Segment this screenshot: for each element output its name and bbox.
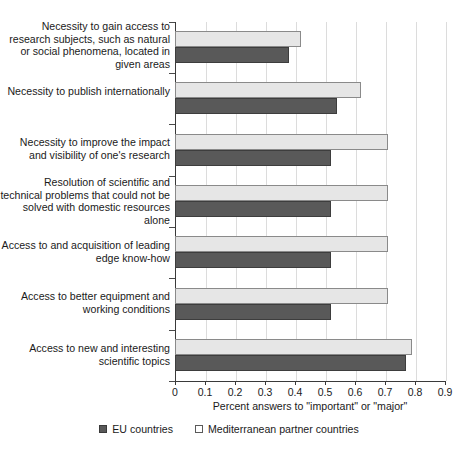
legend-label-eu-countries: EU countries	[112, 423, 173, 435]
y-tick-2	[169, 124, 175, 125]
gridline-0.6	[356, 22, 357, 381]
x-tick-mark-9	[445, 381, 446, 385]
empty-square-icon	[195, 425, 203, 433]
x-axis-line	[175, 381, 446, 382]
x-tick-mark-6	[355, 381, 356, 385]
x-axis-title: Percent answers to "important" or "major…	[175, 400, 445, 412]
x-tick-label-4: 0.4	[280, 386, 310, 398]
x-tick-mark-0	[175, 381, 176, 385]
category-label-5: Access to better equipment and working c…	[0, 290, 170, 315]
category-label-text: Necessity to gain access to research sub…	[9, 20, 170, 70]
bar-med-5	[175, 288, 388, 304]
bar-eu-2	[175, 150, 331, 166]
bar-med-2	[175, 134, 388, 150]
legend-item-eu-countries: EU countries	[99, 423, 173, 435]
gridline-0.8	[416, 22, 417, 381]
x-tick-label-3: 0.3	[250, 386, 280, 398]
x-tick-mark-3	[265, 381, 266, 385]
y-tick-5	[169, 278, 175, 279]
x-tick-label-2: 0.2	[220, 386, 250, 398]
bar-med-1	[175, 82, 361, 98]
x-tick-mark-8	[415, 381, 416, 385]
gridline-0.7	[386, 22, 387, 381]
category-label-2: Necessity to improve the impact and visi…	[0, 136, 170, 161]
x-tick-mark-4	[295, 381, 296, 385]
bar-eu-4	[175, 252, 331, 268]
x-tick-label-5: 0.5	[310, 386, 340, 398]
bar-eu-6	[175, 355, 406, 371]
y-tick-4	[169, 227, 175, 228]
bar-med-6	[175, 339, 412, 355]
legend-label-mediterranean-partner-countries: Mediterranean partner countries	[208, 423, 359, 435]
category-label-3: Resolution of scientific and technical p…	[0, 176, 170, 226]
category-label-text: Necessity to publish internationally	[7, 85, 170, 97]
category-label-text: Necessity to improve the impact and visi…	[20, 136, 170, 161]
x-tick-label-6: 0.6	[340, 386, 370, 398]
x-tick-label-8: 0.8	[400, 386, 430, 398]
bar-med-4	[175, 236, 388, 252]
category-label-1: Necessity to publish internationally	[0, 85, 170, 98]
bar-med-0	[175, 31, 301, 47]
chart-legend: EU countries Mediterranean partner count…	[0, 423, 458, 435]
filled-square-icon	[99, 425, 107, 433]
category-label-text: Access to and acquisition of leading edg…	[2, 239, 170, 264]
y-tick-1	[169, 73, 175, 74]
category-label-4: Access to and acquisition of leading edg…	[0, 239, 170, 264]
y-tick-6	[169, 330, 175, 331]
bar-eu-0	[175, 47, 289, 63]
x-tick-label-9: 0.9	[430, 386, 458, 398]
legend-item-mediterranean-partner-countries: Mediterranean partner countries	[195, 423, 359, 435]
gridline-0.9	[446, 22, 447, 381]
x-tick-label-0: 0	[160, 386, 190, 398]
x-tick-mark-5	[325, 381, 326, 385]
x-tick-mark-1	[205, 381, 206, 385]
x-tick-mark-7	[385, 381, 386, 385]
bar-med-3	[175, 185, 388, 201]
x-tick-label-1: 0.1	[190, 386, 220, 398]
category-label-text: Access to better equipment and working c…	[21, 290, 170, 315]
category-label-6: Access to new and interesting scientific…	[0, 342, 170, 367]
bar-eu-5	[175, 304, 331, 320]
category-label-text: Resolution of scientific and technical p…	[0, 176, 170, 226]
horizontal-bar-chart: Necessity to gain access to research sub…	[0, 0, 458, 456]
x-tick-label-7: 0.7	[370, 386, 400, 398]
bar-eu-3	[175, 201, 331, 217]
category-label-0: Necessity to gain access to research sub…	[0, 20, 170, 70]
bar-eu-1	[175, 98, 337, 114]
x-tick-mark-2	[235, 381, 236, 385]
category-label-text: Access to new and interesting scientific…	[29, 342, 170, 367]
